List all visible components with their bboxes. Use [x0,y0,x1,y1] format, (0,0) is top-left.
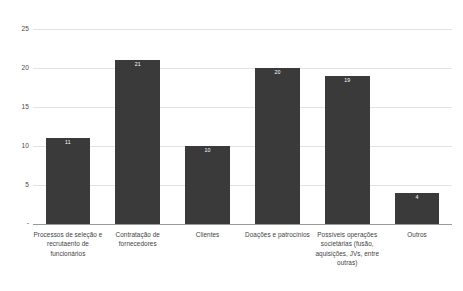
x-label-operacoes-societarias: Possíveis operações societárias (fusão, … [308,230,386,267]
bar-outros[interactable]: 4 [395,193,440,224]
bar-processos[interactable]: 11 [46,138,91,224]
y-tick-label-15: 15 [5,104,29,111]
bar-clientes[interactable]: 10 [185,146,230,224]
bar-value-label: 19 [325,78,370,83]
bars-layer: 11 21 10 20 19 4 [33,29,452,224]
y-tick-label-10: 10 [5,143,29,150]
x-label-contratacao: Contratação de fornecedores [103,230,173,249]
bar-slot-4: 20 [243,29,313,224]
bar-value-label: 20 [255,70,300,75]
bar-slot-5: 19 [312,29,382,224]
x-axis-line [33,224,452,225]
bar-chart: 25 20 15 10 5 - 11 21 10 [0,0,463,291]
x-axis-labels: Processos de seleção e recrutaento de fu… [33,230,452,291]
x-label-doacoes: Doações e patrocínios [243,230,313,239]
y-tick-label-5: 5 [5,182,29,189]
x-label-clientes: Clientes [173,230,243,239]
bar-slot-3: 10 [173,29,243,224]
y-axis-labels: 25 20 15 10 5 - [0,0,29,291]
bar-slot-1: 11 [33,29,103,224]
y-tick-label-0: - [5,220,29,227]
bar-value-label: 4 [395,195,440,200]
bar-slot-2: 21 [103,29,173,224]
bar-contratacao[interactable]: 21 [115,60,160,224]
bar-operacoes-societarias[interactable]: 19 [325,76,370,224]
y-tick-label-25: 25 [5,26,29,33]
bar-slot-6: 4 [382,29,452,224]
x-label-outros: Outros [382,230,452,239]
bar-doacoes[interactable]: 20 [255,68,300,224]
bar-value-label: 11 [46,140,91,145]
x-label-processos: Processos de seleção e recrutaento de fu… [33,230,103,258]
bar-value-label: 21 [115,62,160,67]
y-tick-label-20: 20 [5,65,29,72]
bar-value-label: 10 [185,148,230,153]
